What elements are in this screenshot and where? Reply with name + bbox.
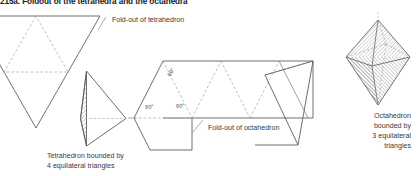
octahedron-net-fold-4 <box>250 61 279 118</box>
tetrahedron-solid <box>81 71 127 146</box>
octahedron-net <box>128 61 313 150</box>
caption-octahedron-line2: bounded by <box>317 122 411 131</box>
caption-tetrahedron-line1: Tetrahedron bounded by <box>47 152 124 161</box>
label-foldout-octahedron: Fold-out of octahedron <box>208 124 279 133</box>
tetrahedron-label-leader <box>98 17 106 30</box>
octahedron-net-fold-2 <box>192 61 221 118</box>
figure-container: 215a. Foldout of the tetrahedra and the … <box>0 0 417 176</box>
caption-octahedron-line3: 3 equilateral <box>317 132 411 141</box>
octahedron-solid <box>346 12 410 105</box>
caption-octahedron-line1: Octahedron <box>317 112 411 121</box>
angle-label-right: 60° <box>176 102 185 109</box>
angle-label-left: 60° <box>145 103 154 110</box>
caption-tetrahedron-line2: 4 equilateral triangles <box>47 162 114 171</box>
tetrahedron-net-fold-lines <box>4 16 68 72</box>
octahedron-net-edge-lower-left <box>134 118 150 150</box>
octahedron-net-fold-3 <box>221 61 250 118</box>
tetrahedron-solid-silhouette <box>81 71 127 146</box>
caption-octahedron-line4: triangles <box>317 142 411 151</box>
label-foldout-tetrahedron: Fold-out of tetrahedron <box>112 16 184 25</box>
octahedron-label-leader <box>192 120 203 133</box>
octahedron-solid-upper-fill <box>346 20 410 57</box>
